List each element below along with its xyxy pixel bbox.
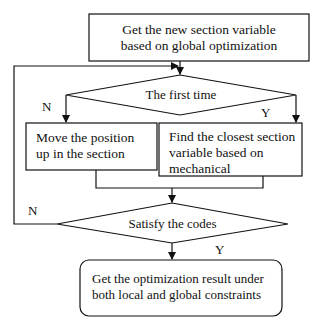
decision1-label: The first time <box>66 87 296 103</box>
left-box-text: Move the position up in the section <box>36 130 156 162</box>
left-line-2: up in the section <box>36 146 156 162</box>
decision1-yes-label: Y <box>261 105 270 121</box>
start-line-1: Get the new section variable <box>89 22 309 38</box>
end-box-text: Get the optimization result under both l… <box>92 271 282 303</box>
right-line-3: mechanical <box>169 161 301 177</box>
end-line-2: both local and global constraints <box>92 287 282 303</box>
decision2-yes-label: Y <box>215 242 224 258</box>
decision2-no-label: N <box>28 203 37 219</box>
start-box-text: Get the new section variable based on gl… <box>89 22 309 54</box>
start-line-2: based on global optimization <box>89 38 309 54</box>
decision2-label: Satisfy the codes <box>57 216 288 232</box>
end-line-1: Get the optimization result under <box>92 271 282 287</box>
right-line-2: variable based on <box>169 145 301 161</box>
right-line-1: Find the closest section <box>169 129 301 145</box>
right-box-text: Find the closest section variable based … <box>169 129 301 177</box>
left-line-1: Move the position <box>36 130 156 146</box>
decision1-no-label: N <box>42 99 51 115</box>
